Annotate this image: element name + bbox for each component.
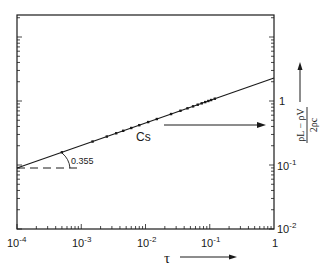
x-axis-arrow-head-icon xyxy=(229,255,237,260)
svg-text:10-1: 10-1 xyxy=(277,158,297,172)
x-axis-label: τ xyxy=(164,250,170,266)
svg-text:1: 1 xyxy=(279,95,285,107)
series-label-cs: Cs xyxy=(136,130,151,144)
chart: 0.355 Cs 10-4 10-3 10-2 10-1 1 τ 1 10-1 … xyxy=(0,0,327,268)
svg-text:10-2: 10-2 xyxy=(137,235,157,249)
fit-line xyxy=(17,78,274,168)
y-axis-arrow-head-icon xyxy=(298,62,303,70)
x-tick-labels: 10-4 10-3 10-2 10-1 1 xyxy=(7,235,278,249)
cs-arrow-head-icon xyxy=(257,122,266,128)
svg-text:ρL − ρV: ρL − ρV xyxy=(295,107,306,141)
svg-text:10-3: 10-3 xyxy=(72,235,92,249)
slope-angle-arc xyxy=(62,153,70,168)
svg-text:10-4: 10-4 xyxy=(7,235,27,249)
svg-text:1: 1 xyxy=(272,237,278,249)
x-axis-ticks xyxy=(17,224,271,229)
slope-label: 0.355 xyxy=(71,156,94,166)
plot-frame xyxy=(17,15,274,229)
svg-text:2ρc: 2ρc xyxy=(308,117,319,132)
svg-text:10-2: 10-2 xyxy=(277,221,297,235)
svg-text:10-1: 10-1 xyxy=(201,235,221,249)
y-tick-labels: 1 10-1 10-2 xyxy=(277,95,297,235)
y-axis-label: ρL − ρV 2ρc xyxy=(295,107,319,143)
